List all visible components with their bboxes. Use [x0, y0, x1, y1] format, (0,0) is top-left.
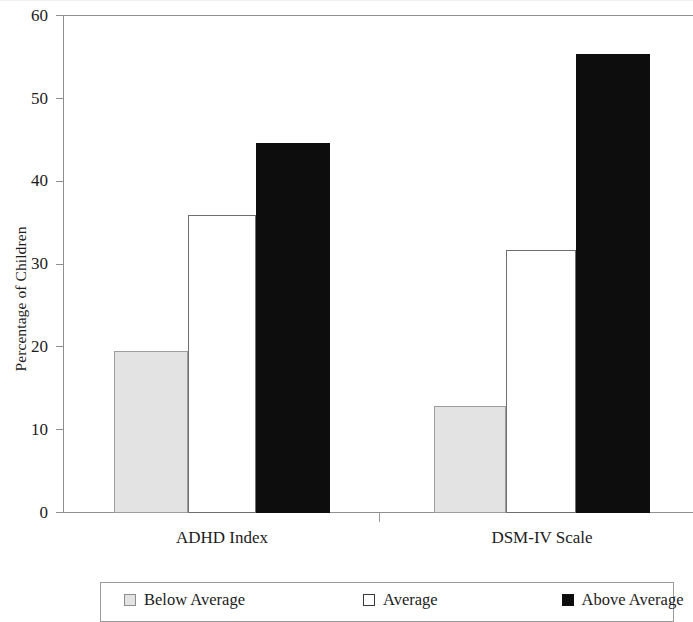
legend: Below Average Average Above Average: [100, 582, 674, 618]
legend-swatch-below-average-icon: [124, 594, 136, 606]
y-tick-label-60: 60: [0, 6, 48, 26]
legend-item-average: Average: [363, 590, 438, 610]
y-axis-title: Percentage of Children: [12, 149, 30, 449]
bar-dsm-iv-scale-above-average: [576, 54, 650, 513]
legend-item-below-average: Below Average: [124, 590, 245, 610]
legend-label-average: Average: [383, 590, 438, 610]
bar-adhd-index-below-average: [114, 351, 188, 513]
y-axis-line: [63, 15, 64, 513]
legend-swatch-above-average-icon: [562, 594, 574, 606]
x-category-label-adhd-index: ADHD Index: [112, 528, 332, 548]
x-category-label-dsm-iv-scale: DSM-IV Scale: [432, 528, 652, 548]
y-tick-label-30: 30: [0, 254, 48, 274]
y-tick-label-10: 10: [0, 420, 48, 440]
legend-label-below-average: Below Average: [144, 590, 245, 610]
y-tick-label-50: 50: [0, 89, 48, 109]
legend-swatch-average-icon: [363, 594, 375, 606]
bar-dsm-iv-scale-below-average: [434, 406, 506, 513]
x-category-separator-tick: [379, 513, 380, 522]
scan-edge: [0, 0, 693, 1]
bar-adhd-index-average: [188, 215, 256, 513]
y-tick-label-0: 0: [0, 503, 48, 523]
bar-dsm-iv-scale-average: [506, 250, 576, 513]
legend-label-above-average: Above Average: [582, 590, 684, 610]
bar-adhd-index-above-average: [256, 143, 330, 513]
y-tick-label-20: 20: [0, 337, 48, 357]
legend-item-above-average: Above Average: [562, 590, 684, 610]
y-tick-label-40: 40: [0, 171, 48, 191]
plot-border-top: [63, 15, 693, 16]
